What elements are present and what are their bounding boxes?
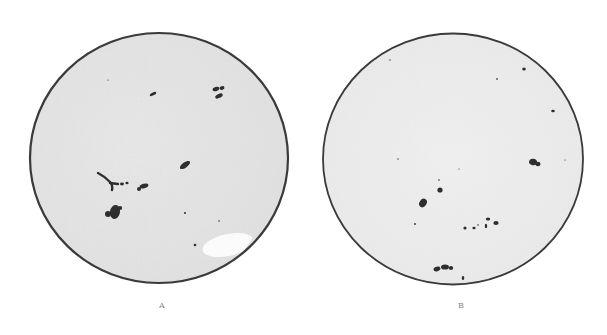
sunspot-streak <box>110 183 118 184</box>
sunspot <box>414 223 416 225</box>
sunspot <box>449 266 453 270</box>
sunspot <box>477 224 479 226</box>
sunspot <box>107 79 108 80</box>
sunspot <box>438 179 440 181</box>
sunspot <box>551 110 555 112</box>
sunspot <box>194 244 197 247</box>
sunspot <box>441 264 449 269</box>
sunspot <box>184 212 186 214</box>
sunspot-plate <box>0 0 607 335</box>
sunspot <box>564 159 565 160</box>
sunspot <box>125 182 128 184</box>
sunspot <box>496 78 498 80</box>
disc-texture <box>30 33 288 283</box>
sunspot <box>536 162 541 166</box>
sunspot <box>397 158 398 159</box>
solar-disc-a <box>30 33 288 283</box>
sunspot <box>120 183 124 186</box>
sunspot-figure: A B <box>0 0 607 335</box>
sunspot <box>472 227 475 230</box>
sunspot <box>493 221 498 225</box>
sunspot <box>486 217 490 220</box>
sunspot <box>137 187 141 191</box>
solar-disc-b <box>323 34 583 285</box>
sunspot <box>458 168 459 169</box>
sunspot <box>118 206 122 210</box>
sunspot <box>462 276 465 280</box>
panel-label-b: B <box>458 301 464 310</box>
sunspot <box>389 59 390 60</box>
panel-label-a: A <box>159 301 165 310</box>
sunspot <box>463 226 466 229</box>
sunspot <box>522 67 526 70</box>
sunspot <box>218 220 220 222</box>
sunspot <box>437 187 442 192</box>
sunspot <box>485 224 487 228</box>
disc-texture <box>323 34 583 285</box>
sunspot <box>105 211 111 217</box>
